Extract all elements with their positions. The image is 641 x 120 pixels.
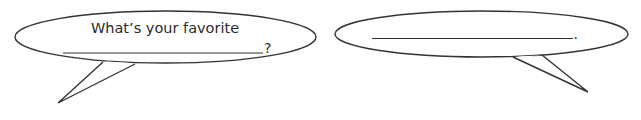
left-bubble-question-text: What’s your favorite (91, 20, 239, 36)
right-bubble-tail (513, 55, 588, 92)
left-speech-bubble: What’s your favorite ? (15, 11, 316, 103)
right-period: . (574, 26, 578, 42)
speech-bubbles-worksheet: What’s your favorite ? . (0, 0, 641, 120)
right-speech-bubble: . (335, 11, 628, 92)
left-question-mark: ? (264, 40, 271, 56)
left-bubble-tail (58, 62, 135, 103)
right-bubble-outline (335, 11, 628, 57)
